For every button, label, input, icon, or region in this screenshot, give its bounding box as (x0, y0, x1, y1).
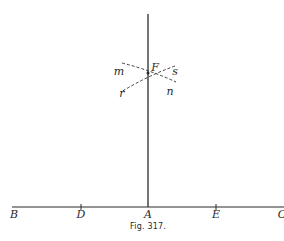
label-s: s (172, 66, 178, 77)
figure-caption: Fig. 317. (130, 222, 166, 231)
point-f (147, 72, 150, 75)
geometry-figure (0, 0, 284, 241)
label-d: D (77, 209, 86, 220)
label-r: r (119, 88, 124, 99)
label-c: C (278, 209, 284, 220)
label-f: F (151, 62, 159, 73)
label-a: A (144, 209, 152, 220)
label-e: E (212, 209, 220, 220)
label-b: B (10, 209, 18, 220)
label-m: m (114, 66, 124, 77)
label-n: n (166, 86, 173, 97)
